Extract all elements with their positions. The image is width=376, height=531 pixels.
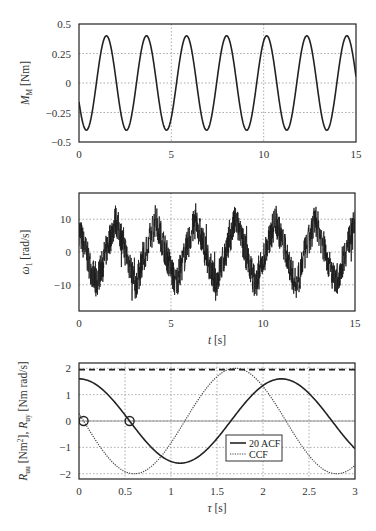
plot-angular-velocity: 051015−10010ω1 [rad/s]t [s] [19,193,361,346]
y-tick-label: −0.25 [46,107,72,119]
x-tick-label: 3 [352,485,358,497]
x-axis-label: t [s] [208,334,226,346]
x-tick-label: 1.5 [210,485,224,497]
x-tick-label: 5 [169,148,175,160]
y-axis-label: ω1 [rad/s] [19,230,34,275]
y-tick-label: 10 [60,213,72,225]
x-tick-label: 15 [350,317,362,329]
x-tick-label: 0 [76,485,82,497]
y-tick-label: 0.5 [57,18,71,30]
y-axis-label: MM [Nm] [19,61,34,106]
y-tick-label: 0.25 [52,48,72,60]
x-tick-label: 5 [168,317,174,329]
x-tick-label: 10 [258,317,270,329]
legend-entry-ccf: CCF [249,449,268,460]
legend-entry-acf: 20 ACF [249,438,281,449]
plot-correlation-functions: 00.511.522.53−2−101220 ACFCCFRuu [Nm2], … [16,361,358,514]
x-tick-label: 0 [76,148,82,160]
y-axis-label: Ruu [Nm2], Ruy [Nm rad/s] [16,361,32,481]
grid [79,24,356,142]
x-tick-label: 1 [168,485,174,497]
y-tick-label: −0.5 [51,136,71,148]
figure: 051015−0.5−0.2500.250.5MM [Nm] 051015−10… [0,0,376,531]
legend: 20 ACFCCF [226,435,282,461]
x-tick-label: 15 [351,148,363,160]
x-tick-label: 2 [260,485,266,497]
y-tick-label: 2 [66,362,72,374]
x-tick-label: 10 [258,148,270,160]
y-tick-label: −1 [59,441,71,453]
plot-motor-torque: 051015−0.5−0.2500.250.5MM [Nm] [19,18,362,160]
x-tick-label: 0 [76,317,82,329]
y-tick-label: 0 [66,246,72,258]
y-tick-label: 0 [66,415,72,427]
x-tick-label: 0.5 [118,485,132,497]
y-tick-label: 1 [66,389,72,401]
y-tick-label: 0 [66,77,72,89]
x-tick-label: 2.5 [302,485,316,497]
x-axis-label: τ [s] [207,502,226,514]
y-tick-label: −2 [59,468,71,480]
y-tick-label: −10 [54,279,72,291]
